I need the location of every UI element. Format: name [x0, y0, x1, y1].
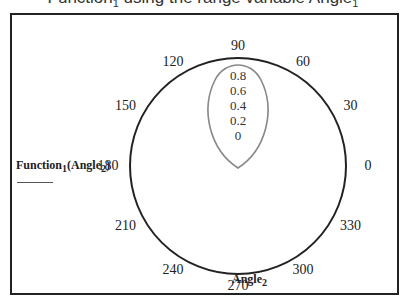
y-axis-label: Function1(Angle2)	[16, 158, 110, 174]
y-label-underline	[17, 182, 53, 183]
angle-tick: 330	[340, 218, 361, 234]
radial-tick: 0.6	[230, 83, 246, 99]
angle-tick: 90	[231, 38, 245, 54]
angle-tick: 60	[296, 54, 310, 70]
angle-tick: 150	[115, 98, 136, 114]
radial-tick: 0.8	[230, 68, 246, 84]
angle-tick: 210	[115, 218, 136, 234]
x-axis-label: Angle2	[232, 272, 267, 288]
angle-tick: 0	[365, 158, 372, 174]
polar-plot	[0, 0, 406, 303]
angle-tick: 120	[163, 54, 184, 70]
radial-tick: 0	[235, 128, 242, 144]
angle-tick: 30	[344, 98, 358, 114]
radial-tick: 0.2	[230, 113, 246, 129]
angle-tick: 300	[293, 262, 314, 278]
angle-tick: 240	[163, 262, 184, 278]
radial-tick: 0.4	[230, 98, 246, 114]
